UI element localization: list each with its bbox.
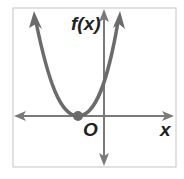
x-axis-label: x [160,119,171,141]
y-axis-label: f(x) [71,13,101,35]
origin-label: O [83,119,98,141]
vertex-point [73,111,83,121]
